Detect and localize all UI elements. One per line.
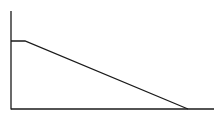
data-line	[11, 41, 188, 109]
chart	[0, 0, 221, 116]
